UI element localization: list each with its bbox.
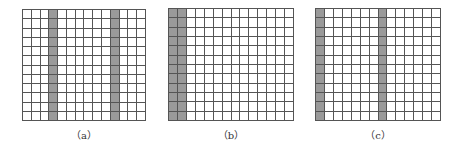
grid-cell bbox=[76, 103, 85, 112]
grid-cell bbox=[23, 47, 32, 56]
grid-cell bbox=[405, 28, 414, 37]
grid-cell bbox=[128, 103, 137, 112]
grid-cell bbox=[137, 38, 146, 47]
grid-cell-shaded bbox=[379, 84, 388, 93]
grid-cell bbox=[187, 18, 196, 27]
grid-cell bbox=[58, 56, 67, 65]
grid-cell bbox=[370, 65, 379, 74]
grid-cell bbox=[41, 103, 50, 112]
grid-cell bbox=[334, 102, 343, 111]
grid-cell bbox=[325, 56, 334, 65]
grid-cell bbox=[396, 93, 405, 102]
grid-cell bbox=[76, 84, 85, 93]
grid-cell bbox=[370, 56, 379, 65]
grid-cell bbox=[432, 18, 441, 27]
grid-cell bbox=[128, 56, 137, 65]
grid-cell bbox=[258, 56, 267, 65]
grid-cell bbox=[361, 9, 370, 18]
grid-cell bbox=[414, 9, 423, 18]
grid-cell bbox=[58, 84, 67, 93]
grid-cell-shaded bbox=[111, 84, 120, 93]
grid-cell bbox=[232, 46, 241, 55]
grid-cell bbox=[32, 47, 41, 56]
grid-cell bbox=[352, 74, 361, 83]
grid-cell-shaded bbox=[111, 47, 120, 56]
grid-cell bbox=[352, 46, 361, 55]
grid-cell bbox=[334, 65, 343, 74]
grid-cell bbox=[267, 37, 276, 46]
grid-cell bbox=[84, 47, 93, 56]
grid-cell bbox=[120, 10, 129, 19]
grid-cell bbox=[232, 37, 241, 46]
grid-cell bbox=[267, 65, 276, 74]
grid-cell bbox=[405, 56, 414, 65]
grid-cell bbox=[232, 18, 241, 27]
grid-cell bbox=[414, 65, 423, 74]
grid-cell bbox=[361, 112, 370, 121]
grid-cell bbox=[352, 84, 361, 93]
grid-cell bbox=[343, 102, 352, 111]
grid-cell bbox=[32, 84, 41, 93]
grid-cell bbox=[343, 28, 352, 37]
grid-cell-shaded bbox=[178, 37, 187, 46]
grid-cell-shaded bbox=[178, 46, 187, 55]
grid-cell bbox=[334, 56, 343, 65]
grid-cell bbox=[249, 56, 258, 65]
grid-cell-shaded bbox=[111, 112, 120, 121]
grid-cell bbox=[23, 84, 32, 93]
grid-cell bbox=[432, 102, 441, 111]
grid-cell bbox=[84, 38, 93, 47]
grid-cell-shaded bbox=[178, 84, 187, 93]
grid-cell-shaded bbox=[49, 38, 58, 47]
grid-cell bbox=[205, 46, 214, 55]
grid-cell bbox=[58, 75, 67, 84]
grid-cell bbox=[137, 47, 146, 56]
grid-cell-shaded bbox=[49, 56, 58, 65]
grid-cell bbox=[23, 66, 32, 75]
grid-cell bbox=[232, 56, 241, 65]
grid-cell bbox=[93, 56, 102, 65]
grid-cell bbox=[414, 18, 423, 27]
grid-cell bbox=[23, 75, 32, 84]
grid-cell-shaded bbox=[178, 74, 187, 83]
grid-cell bbox=[223, 74, 232, 83]
grid-cell-shaded bbox=[169, 28, 178, 37]
grid-cell bbox=[276, 46, 285, 55]
grid-cell-shaded bbox=[111, 66, 120, 75]
grid-cell bbox=[205, 102, 214, 111]
grid-cell bbox=[58, 112, 67, 121]
grid-cell bbox=[423, 56, 432, 65]
grid-cell bbox=[84, 103, 93, 112]
grid-cell bbox=[361, 37, 370, 46]
grid-cell bbox=[396, 102, 405, 111]
grid-cell bbox=[423, 74, 432, 83]
grid-cell bbox=[432, 112, 441, 121]
grid-cell bbox=[196, 18, 205, 27]
grid-cell bbox=[285, 37, 294, 46]
grid-cell bbox=[414, 56, 423, 65]
grid-cell bbox=[196, 56, 205, 65]
panel-label-b: （b） bbox=[201, 127, 261, 142]
grid-cell bbox=[432, 9, 441, 18]
grid-cell bbox=[196, 9, 205, 18]
grid-cell bbox=[387, 37, 396, 46]
grid-cell bbox=[32, 112, 41, 121]
grid-cell bbox=[120, 93, 129, 102]
grid-cell bbox=[32, 29, 41, 38]
grid-cell bbox=[343, 46, 352, 55]
grid-cell bbox=[258, 37, 267, 46]
grid-cell bbox=[120, 103, 129, 112]
grid-cell bbox=[196, 74, 205, 83]
grid-cell bbox=[41, 112, 50, 121]
grid-cell bbox=[120, 19, 129, 28]
grid-cell bbox=[58, 29, 67, 38]
grid-cell bbox=[276, 84, 285, 93]
grid-cell bbox=[361, 93, 370, 102]
grid-cell bbox=[240, 112, 249, 121]
grid-cell bbox=[187, 28, 196, 37]
grid-cell-shaded bbox=[169, 46, 178, 55]
grid-cell-shaded bbox=[316, 28, 325, 37]
grid-cell bbox=[396, 65, 405, 74]
grid-cell bbox=[240, 74, 249, 83]
grid-cell bbox=[267, 18, 276, 27]
